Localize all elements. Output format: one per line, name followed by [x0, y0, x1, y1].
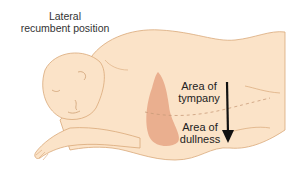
dullness-line-2: dullness — [176, 133, 224, 145]
tympany-line-1: Area of — [174, 80, 224, 92]
title-line-2: recumbent position — [20, 22, 110, 34]
tympany-label: Area of tympany — [174, 80, 224, 104]
tympany-line-2: tympany — [174, 92, 224, 104]
dullness-line-1: Area of — [176, 121, 224, 133]
dullness-label: Area of dullness — [176, 121, 224, 145]
position-title: Lateral recumbent position — [20, 10, 110, 34]
lateral-recumbent-diagram: Lateral recumbent position Area of tympa… — [0, 0, 293, 176]
head-shape — [43, 53, 105, 120]
title-line-1: Lateral — [20, 10, 110, 22]
